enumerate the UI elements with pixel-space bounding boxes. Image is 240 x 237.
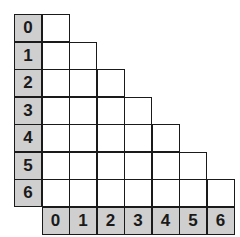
- grid-cell: [97, 179, 125, 207]
- row-header: 5: [14, 152, 42, 180]
- row-header: 2: [14, 69, 42, 97]
- grid-cell: [42, 42, 70, 70]
- grid-cell: [42, 69, 70, 97]
- grid-cell: [97, 124, 125, 152]
- grid-cell: [69, 97, 97, 125]
- grid-cell: [124, 152, 152, 180]
- grid-cell: [42, 124, 70, 152]
- column-header: 3: [124, 207, 152, 235]
- grid-cell: [207, 179, 235, 207]
- grid-cell: [42, 152, 70, 180]
- grid-cell: [97, 97, 125, 125]
- grid-cell: [97, 69, 125, 97]
- row-header: 0: [14, 14, 42, 42]
- grid-cell: [42, 179, 70, 207]
- grid-cell: [42, 14, 70, 42]
- row-header: 4: [14, 124, 42, 152]
- grid-cell: [69, 179, 97, 207]
- grid-cell: [69, 42, 97, 70]
- row-header: 6: [14, 179, 42, 207]
- grid-cell: [152, 179, 180, 207]
- column-header: 0: [42, 207, 70, 235]
- grid-cell: [69, 69, 97, 97]
- grid-cell: [124, 97, 152, 125]
- column-header: 2: [97, 207, 125, 235]
- column-header: 4: [152, 207, 180, 235]
- grid-cell: [42, 97, 70, 125]
- grid-cell: [152, 152, 180, 180]
- grid-cell: [179, 179, 207, 207]
- grid-cell: [97, 152, 125, 180]
- grid-cell: [69, 152, 97, 180]
- grid-cell: [124, 179, 152, 207]
- row-header: 1: [14, 42, 42, 70]
- column-header: 5: [179, 207, 207, 235]
- grid-cell: [152, 124, 180, 152]
- column-header: 1: [69, 207, 97, 235]
- grid-cell: [124, 124, 152, 152]
- row-header: 3: [14, 97, 42, 125]
- column-header: 6: [207, 207, 235, 235]
- grid-cell: [69, 124, 97, 152]
- grid-cell: [179, 152, 207, 180]
